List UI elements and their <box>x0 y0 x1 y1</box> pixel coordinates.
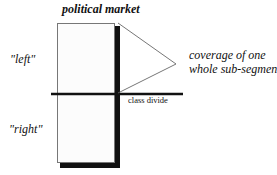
right-segment-label: "right" <box>9 122 42 137</box>
class-divide-label: class divide <box>128 95 168 105</box>
diagram-lines <box>0 0 277 175</box>
coverage-line-2: whole sub-segment <box>189 62 277 76</box>
callout-lower-line <box>118 64 176 93</box>
callout-upper-line <box>118 23 176 64</box>
coverage-line-1: coverage of one <box>189 48 277 62</box>
left-segment-label: "left" <box>10 52 35 67</box>
coverage-callout: coverage of one whole sub-segment <box>189 48 277 76</box>
